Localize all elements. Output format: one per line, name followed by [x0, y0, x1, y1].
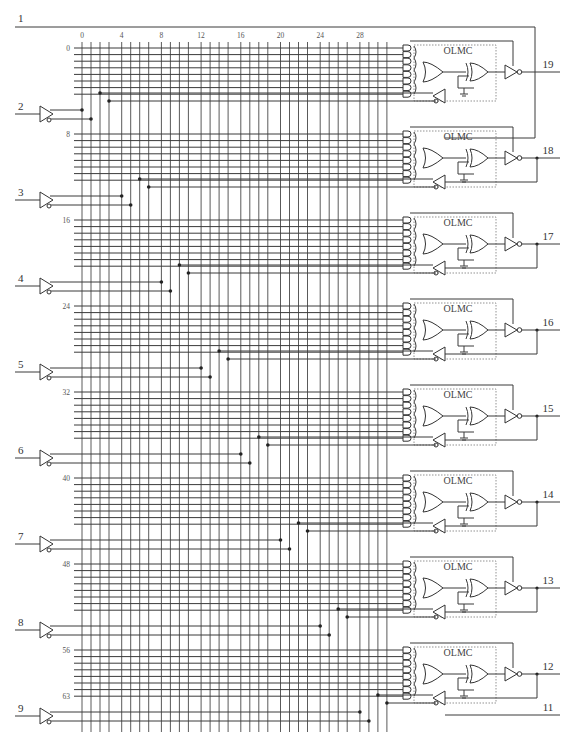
pin-11-label: 11	[543, 701, 554, 713]
output-pin-label: 12	[543, 660, 554, 672]
olmc-label: OLMC	[444, 647, 473, 658]
olmc-block-18	[74, 127, 560, 189]
row-label: 32	[63, 388, 71, 397]
olmc-label: OLMC	[444, 45, 473, 56]
output-buffer-icon	[505, 409, 517, 423]
output-buffer-icon	[505, 323, 517, 337]
diagram-canvas: 104812162024280OLMC198OLMC1816OLMC1724OL…	[0, 0, 573, 737]
column-label: 28	[356, 31, 364, 40]
olmc-block-13	[74, 557, 560, 619]
column-label: 24	[316, 31, 324, 40]
input-pin-label: 8	[18, 616, 24, 628]
input-buffer-pin-6	[15, 450, 252, 466]
column-label: 16	[237, 31, 245, 40]
olmc-block-19	[74, 41, 560, 103]
output-pin-label: 15	[543, 402, 555, 414]
output-pin-label: 18	[543, 144, 555, 156]
input-buffer-pin-8	[15, 622, 331, 638]
output-buffer-icon	[505, 151, 517, 165]
output-pin-label: 14	[543, 488, 555, 500]
column-label: 0	[80, 31, 84, 40]
input-pin-label: 6	[18, 444, 24, 456]
row-label: 63	[63, 692, 71, 701]
input-pin-label: 7	[18, 530, 24, 542]
column-label: 12	[197, 31, 205, 40]
input-buffer-pin-2	[15, 106, 93, 122]
column-label: 8	[160, 31, 164, 40]
olmc-block-12	[74, 643, 560, 705]
row-label: 56	[63, 646, 71, 655]
output-pin-label: 17	[543, 230, 555, 242]
row-label: 8	[66, 130, 70, 139]
row-label: 0	[66, 44, 70, 53]
input-buffer-pin-3	[15, 192, 133, 208]
gal-logic-diagram: 104812162024280OLMC198OLMC1816OLMC1724OL…	[0, 0, 573, 737]
input-pin-label: 5	[18, 358, 24, 370]
input-pin-label: 2	[18, 100, 24, 112]
input-pin-label: 4	[18, 272, 24, 284]
olmc-block-16	[74, 299, 560, 361]
output-pin-label: 13	[543, 574, 555, 586]
input-columns	[82, 42, 387, 732]
olmc-label: OLMC	[444, 131, 473, 142]
olmc-label: OLMC	[444, 561, 473, 572]
output-buffer-icon	[505, 581, 517, 595]
input-pin-label: 3	[18, 186, 24, 198]
row-label: 24	[63, 302, 71, 311]
output-buffer-icon	[505, 495, 517, 509]
input-buffer-pin-9	[15, 708, 371, 724]
output-pin-label: 19	[543, 58, 555, 70]
row-label: 48	[63, 560, 71, 569]
olmc-label: OLMC	[444, 389, 473, 400]
olmc-label: OLMC	[444, 475, 473, 486]
input-pin-label: 9	[18, 702, 24, 714]
output-buffer-icon	[505, 667, 517, 681]
olmc-label: OLMC	[444, 303, 473, 314]
output-pin-label: 16	[543, 316, 555, 328]
olmc-block-14	[74, 471, 560, 533]
olmc-block-17	[74, 213, 560, 275]
column-label: 20	[277, 31, 285, 40]
column-label: 4	[120, 31, 124, 40]
pin-1-label: 1	[18, 12, 24, 24]
olmc-block-15	[74, 385, 560, 447]
output-buffer-icon	[505, 65, 517, 79]
olmc-label: OLMC	[444, 217, 473, 228]
row-label: 16	[63, 216, 71, 225]
input-buffer-pin-5	[15, 364, 212, 380]
row-label: 40	[63, 474, 71, 483]
output-buffer-icon	[505, 237, 517, 251]
